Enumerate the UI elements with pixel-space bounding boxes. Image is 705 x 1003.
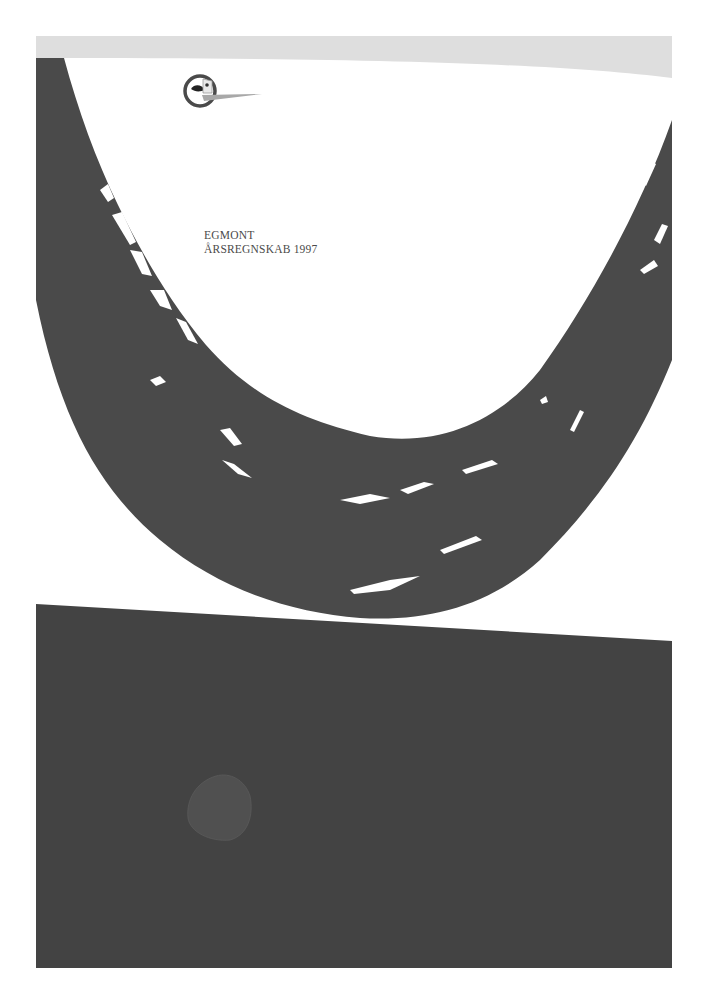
brush-stroke	[36, 58, 672, 619]
top-band	[36, 36, 672, 78]
bottom-panel	[36, 604, 672, 968]
report-cover: EGMONT ÅRSREGNSKAB 1997	[0, 0, 705, 1003]
egmont-logo-icon	[185, 76, 262, 106]
report-title: ÅRSREGNSKAB 1997	[204, 242, 317, 256]
company-name: EGMONT	[204, 228, 317, 242]
cover-artwork	[0, 0, 705, 1003]
cover-title: EGMONT ÅRSREGNSKAB 1997	[204, 228, 317, 256]
